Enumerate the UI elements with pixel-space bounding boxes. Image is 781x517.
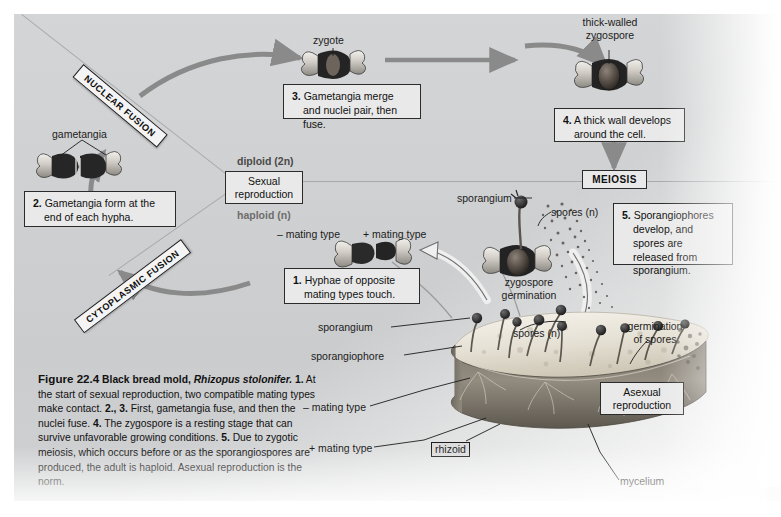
step-4-number: 4. bbox=[563, 114, 572, 126]
step-2-number: 2. bbox=[33, 197, 42, 209]
label-haploid: haploid (n) bbox=[237, 209, 291, 222]
box-sexual-reproduction: Sexual reproduction bbox=[225, 171, 303, 204]
box-meiosis: MEIOSIS bbox=[582, 170, 647, 189]
thick-walled-line2: zygospore bbox=[586, 29, 634, 41]
step-5-number: 5. bbox=[622, 209, 631, 221]
figure-22-4-root: NUCLEAR FUSION CYTOPLASMIC FUSION Sexual… bbox=[0, 0, 781, 517]
figure-caption-body: 1. At the start of sexual reproduction, … bbox=[38, 374, 316, 487]
divider-horizontal-ploidy bbox=[303, 181, 781, 182]
figure-title: Black bread mold, bbox=[102, 374, 194, 385]
step-box-3: 3. Gametangia merge and nuclei pair, the… bbox=[283, 84, 421, 119]
germination-of-spores-line2: of spores bbox=[633, 333, 676, 345]
zygospore-germination-line2: germination bbox=[502, 289, 557, 301]
label-thick-walled-zygospore: thick-walled zygospore bbox=[578, 16, 642, 42]
label-minus-mating-type-top: – mating type bbox=[277, 228, 340, 241]
label-zygote: zygote bbox=[313, 34, 344, 47]
box-asexual-reproduction: Asexual reproduction bbox=[600, 382, 684, 415]
label-plus-mating-type-top: + mating type bbox=[363, 228, 426, 241]
germination-of-spores-line1: germination bbox=[628, 320, 683, 332]
label-zygospore-germination: zygospore germination bbox=[489, 276, 569, 302]
label-spores-n-lower: spores (n) bbox=[513, 327, 560, 340]
label-spores-n-upper: spores (n) bbox=[551, 206, 598, 219]
figure-species: Rhizopus stolonifer. bbox=[194, 374, 292, 385]
step-1-number: 1. bbox=[293, 274, 302, 286]
figure-caption: Figure 22.4 Black bread mold, Rhizopus s… bbox=[38, 371, 322, 490]
asexual-reproduction-label: Asexual reproduction bbox=[607, 386, 677, 411]
step-3-number: 3. bbox=[292, 90, 301, 102]
step-5-text: Sporangiophores develop, and spores are … bbox=[633, 209, 714, 276]
label-sporangiophore: sporangiophore bbox=[311, 350, 384, 363]
step-2-text: Gametangia form at the end of each hypha… bbox=[44, 197, 155, 223]
label-gametangia: gametangia bbox=[52, 128, 107, 141]
label-germination-of-spores: germination of spores bbox=[617, 320, 693, 346]
step-box-5: 5. Sporangiophores develop, and spores a… bbox=[613, 203, 733, 265]
label-sporangium-lower: sporangium bbox=[318, 321, 373, 334]
figure-number: Figure 22.4 bbox=[38, 372, 99, 385]
zygospore-germination-line1: zygospore bbox=[505, 276, 553, 288]
step-box-2: 2. Gametangia form at the end of each hy… bbox=[24, 191, 176, 227]
thick-walled-line1: thick-walled bbox=[583, 16, 638, 28]
meiosis-label: MEIOSIS bbox=[592, 173, 636, 186]
step-1-text: Hyphae of opposite mating types touch. bbox=[304, 274, 395, 300]
label-mycelium: mycelium bbox=[620, 475, 664, 488]
step-box-1: 1. Hyphae of opposite mating types touch… bbox=[284, 268, 420, 304]
label-rhizoid: rhizoid bbox=[431, 442, 470, 457]
step-3-text: Gametangia merge and nuclei pair, then f… bbox=[303, 90, 397, 130]
step-4-text: A thick wall develops around the cell. bbox=[574, 114, 671, 140]
step-box-4: 4. A thick wall develops around the cell… bbox=[554, 108, 685, 142]
label-sporangium-upper: sporangium bbox=[457, 192, 512, 205]
label-diploid: diploid (2n) bbox=[237, 155, 294, 168]
sexual-reproduction-label: Sexual reproduction bbox=[232, 175, 296, 200]
